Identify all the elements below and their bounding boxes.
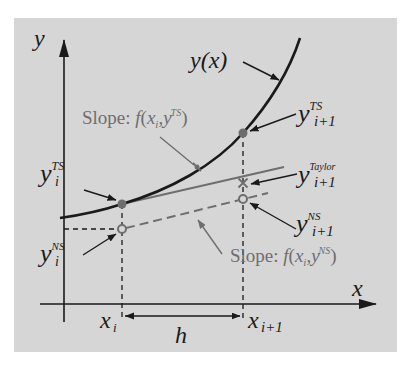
point-y-ip1-ns xyxy=(239,195,247,203)
x-axis-label: x xyxy=(351,275,363,301)
ts-slope-label: Slope: f(xi,yTS) xyxy=(82,107,188,130)
x-i-label: x xyxy=(99,307,111,333)
ns-slope-arrow xyxy=(198,220,222,254)
x-ip1-label: x xyxy=(247,307,259,333)
curve-label: y(x) xyxy=(188,47,227,73)
diagram-canvas: y x y(x) Slope: f(xi,yTS) Slope: f(xi,yN… xyxy=(0,0,408,368)
curve-label-arrow xyxy=(243,62,279,80)
x-ip1-sub: i+1 xyxy=(261,319,283,335)
y-i-ts-sub: i xyxy=(55,174,59,189)
y-i-ns-arrow xyxy=(83,234,116,255)
y-i-ts-arrow xyxy=(84,190,116,200)
y-axis-label: y xyxy=(32,25,45,51)
point-y-ip1-ts xyxy=(239,129,248,138)
ns-slope-label: Slope: f(xi,yNS) xyxy=(230,245,337,268)
step-h-label: h xyxy=(175,322,187,348)
y-ip1-taylor-arrow xyxy=(251,174,297,184)
step-h-dimension xyxy=(125,313,240,320)
point-y-i-ns xyxy=(118,225,126,233)
y-ip1-taylor-sub: i+1 xyxy=(314,174,336,190)
y-i-ns-label: yNS xyxy=(37,239,65,268)
ts-slope-arrow xyxy=(160,137,194,165)
y-i-ns-sub: i xyxy=(55,254,59,269)
y-ip1-ns-sub: i+1 xyxy=(312,223,334,239)
y-i-ts-label: yTS xyxy=(37,159,64,188)
ts-slope-line xyxy=(122,167,284,204)
y-ip1-ns-arrow xyxy=(250,203,296,229)
x-i-sub: i xyxy=(113,320,117,335)
point-y-i-ts xyxy=(118,200,127,209)
y-ip1-ts-sub: i+1 xyxy=(314,113,336,129)
